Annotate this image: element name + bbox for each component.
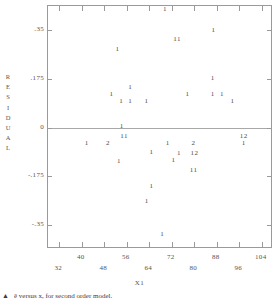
- x-axis-tick-label: 64: [144, 265, 152, 272]
- x-axis-tick: [217, 242, 218, 247]
- data-point: 1: [177, 150, 181, 157]
- data-point: 1: [110, 91, 114, 98]
- x-axis-tick: [217, 6, 218, 11]
- data-point: 1: [211, 75, 215, 82]
- data-point: 1: [150, 148, 154, 155]
- x-axis-tick-label: 40: [77, 254, 85, 261]
- y-axis-tick-label: .175: [31, 74, 44, 81]
- data-point: 1: [166, 140, 170, 147]
- x-axis-tick-label: 56: [122, 254, 130, 261]
- y-axis-tick: [267, 176, 271, 177]
- data-point: 1: [171, 157, 175, 164]
- data-point: 1: [128, 98, 132, 105]
- data-point: 11: [173, 35, 181, 42]
- x-axis-tick: [239, 242, 240, 247]
- data-point: 1: [119, 98, 123, 105]
- zero-reference-line: [48, 128, 271, 129]
- x-axis-tick: [262, 6, 263, 11]
- x-axis-tick: [59, 242, 60, 247]
- x-axis-tick: [239, 6, 240, 11]
- y-axis-tick: [48, 176, 52, 177]
- caption-text: ê versus x, for second order model.: [14, 292, 112, 300]
- data-point: 2: [106, 140, 110, 147]
- plot-area: 111111111111111111121212111121111111: [47, 5, 272, 248]
- x-axis-tick-label: 48: [99, 265, 107, 272]
- x-axis-tick: [127, 242, 128, 247]
- x-axis-tick: [194, 6, 195, 11]
- data-point: 1: [211, 26, 215, 33]
- data-point: 1: [163, 5, 167, 12]
- y-axis-title-letter: L: [3, 143, 13, 153]
- x-axis-tick-label: 104: [255, 254, 266, 261]
- x-axis-tick: [262, 242, 263, 247]
- x-axis-tick: [82, 6, 83, 11]
- residual-plot-figure: RESIDUAL .35.1750-.175-.35 1111111111111…: [0, 0, 279, 301]
- y-axis-tick: [267, 30, 271, 31]
- y-axis-title-letter: I: [3, 103, 13, 113]
- x-axis-tick-label: 32: [54, 265, 62, 272]
- y-axis-title-letter: S: [3, 92, 13, 102]
- data-point: 1: [145, 198, 149, 205]
- y-axis-title-letter: D: [3, 113, 13, 123]
- figure-caption: ▲ê versus x, for second order model.: [2, 292, 277, 301]
- y-axis-tick-label: -.35: [32, 220, 44, 227]
- data-point: 1: [160, 231, 164, 238]
- y-axis-tick-label: .35: [34, 26, 44, 33]
- caption-marker-icon: ▲: [2, 292, 9, 301]
- data-point: 1: [211, 91, 215, 98]
- x-axis-tick: [59, 6, 60, 11]
- y-axis-tick: [267, 225, 271, 226]
- data-point: 11: [120, 132, 128, 139]
- x-axis-tick: [194, 242, 195, 247]
- data-point: 1: [144, 98, 148, 105]
- data-point: 1: [117, 158, 121, 165]
- data-point: 1: [220, 91, 224, 98]
- x-axis-title: X1: [0, 279, 279, 287]
- data-point: 12: [191, 150, 199, 157]
- y-axis-title: RESIDUAL: [3, 72, 13, 154]
- x-axis-tick-label: 96: [234, 265, 242, 272]
- y-axis-title-letter: R: [3, 72, 13, 82]
- y-axis-tick: [48, 30, 52, 31]
- data-point: 1: [150, 182, 154, 189]
- data-point: 1: [242, 140, 246, 147]
- x-axis-tick: [149, 6, 150, 11]
- y-axis-title-letter: E: [3, 82, 13, 92]
- y-axis-tick-label: 0: [40, 123, 44, 130]
- y-axis-tick-label: -.175: [28, 172, 44, 179]
- y-axis-tick: [48, 225, 52, 226]
- data-point: 1: [115, 45, 119, 52]
- y-axis-tick: [267, 79, 271, 80]
- y-axis-title-letter: A: [3, 133, 13, 143]
- x-axis-tick-label: 88: [212, 254, 220, 261]
- y-axis-tick: [48, 128, 52, 129]
- x-axis-tick: [82, 242, 83, 247]
- data-point: 11: [190, 166, 198, 173]
- x-axis-tick: [172, 242, 173, 247]
- data-point: 1: [85, 140, 89, 147]
- y-axis-tick: [48, 79, 52, 80]
- x-axis-tick: [104, 6, 105, 11]
- data-point: 1: [128, 83, 132, 90]
- y-axis-title-letter: U: [3, 123, 13, 133]
- x-axis-tick: [104, 242, 105, 247]
- x-axis-tick-label: 72: [167, 254, 175, 261]
- y-axis-tick: [267, 128, 271, 129]
- x-axis-tick-label: 80: [189, 265, 197, 272]
- data-point: 2: [191, 140, 195, 147]
- x-axis-tick: [149, 242, 150, 247]
- data-point: 1: [120, 123, 124, 130]
- data-point: 1: [231, 98, 235, 105]
- data-point: 1: [186, 91, 190, 98]
- x-axis-tick: [127, 6, 128, 11]
- x-axis-tick: [172, 6, 173, 11]
